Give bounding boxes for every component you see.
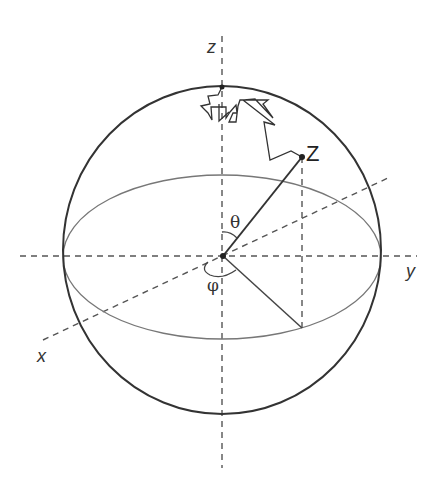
z-point bbox=[299, 154, 305, 160]
origin-point bbox=[220, 253, 226, 259]
projected-vector bbox=[223, 256, 302, 328]
theta-label: θ bbox=[230, 212, 240, 232]
north-pole-point bbox=[220, 85, 225, 90]
x-axis bbox=[43, 178, 388, 340]
x-axis-label: x bbox=[36, 346, 47, 366]
bloch-sphere-diagram: z x y Z θ φ bbox=[0, 0, 439, 483]
random-walk-path bbox=[201, 87, 302, 160]
y-axis-label: y bbox=[404, 261, 416, 281]
phi-label: φ bbox=[207, 275, 219, 295]
z-axis-label: z bbox=[206, 37, 216, 57]
z-point-label: Z bbox=[306, 141, 319, 166]
theta-arc bbox=[222, 232, 237, 238]
state-vector bbox=[223, 157, 302, 256]
